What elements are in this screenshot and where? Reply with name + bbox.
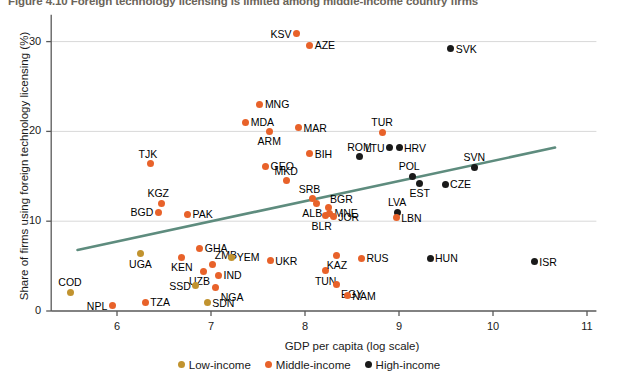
legend-swatch-low [178,361,185,368]
data-point-mkd[interactable] [283,177,290,184]
data-point-jor[interactable] [330,213,337,220]
data-point-aze[interactable] [306,42,313,49]
data-point-label-pol: POL [399,161,420,172]
data-point-hun[interactable] [427,255,434,262]
data-point-label-jor: JOR [338,211,359,222]
legend-swatch-high [365,361,372,368]
data-point-tur[interactable] [379,129,386,136]
data-point-label-mkd: MKD [275,166,298,177]
data-point-label-mda: MDA [251,117,274,128]
data-point-label-cze: CZE [450,179,471,190]
data-point-label-tza: TZA [150,297,170,308]
data-point-label-mar: MAR [303,123,326,134]
y-tick-label-20: 20 [17,124,41,136]
data-point-label-aze: AZE [315,40,335,51]
data-point-label-hrv: HRV [404,142,426,153]
legend-label-high: High-income [376,359,441,371]
data-point-gha[interactable] [196,245,203,252]
data-point-label-mng: MNG [265,99,290,110]
data-point-label-bih: BIH [315,149,333,160]
data-point-ken[interactable] [178,254,185,261]
x-axis-label: GDP per capita (log scale) [117,340,587,352]
data-point-label-svn: SVN [463,152,485,163]
data-point-label-kaz: KAZ [327,260,347,271]
data-point-hrv[interactable] [396,144,403,151]
data-point-label-ksv: KSV [271,28,292,39]
data-point-ukr[interactable] [267,257,274,264]
data-point-label-arm: ARM [258,136,281,147]
legend-label-mid: Middle-income [276,359,351,371]
legend-item-high[interactable]: High-income [365,358,441,371]
data-point-tza[interactable] [142,299,149,306]
data-point-npl[interactable] [109,302,116,309]
data-point-alb[interactable] [313,200,320,207]
data-point-label-nga: NGA [221,291,244,302]
data-point-arm[interactable] [266,128,273,135]
y-tick-label-30: 30 [17,35,41,47]
data-point-label-ukr: UKR [275,255,297,266]
data-point-label-rus: RUS [366,253,388,264]
data-point-nam[interactable] [344,292,351,299]
data-point-pak[interactable] [184,211,191,218]
data-point-isr[interactable] [531,258,538,265]
data-point-yem[interactable] [228,254,235,261]
data-point-label-tjk: TJK [138,148,157,159]
y-tick-label-0: 0 [17,304,41,316]
scatter-chart-figure: Figure 4.10 Foreign technology licensing… [0,0,618,381]
x-tick-label-6: 6 [107,320,127,332]
data-point-uzb[interactable] [200,268,207,275]
data-point-geo[interactable] [262,163,269,170]
data-point-lbn[interactable] [393,214,400,221]
data-point-label-tur: TUR [371,117,393,128]
x-tick-label-11: 11 [577,320,597,332]
x-tick-label-9: 9 [389,320,409,332]
data-point-ksv[interactable] [293,30,300,37]
x-tick-label-10: 10 [483,320,503,332]
data-point-label-bgr: BGR [330,193,353,204]
data-point-label-uga: UGA [129,258,152,269]
data-point-label-kgz: KGZ [147,188,169,199]
data-point-label-lva: LVA [388,197,406,208]
x-tick-label-8: 8 [295,320,315,332]
data-point-label-isr: ISR [539,256,557,267]
data-point-label-alb: ALB [302,208,322,219]
data-point-label-hun: HUN [435,253,458,264]
data-point-svn[interactable] [471,164,478,171]
y-axis-label: Share of firms using foreign technology … [18,21,30,311]
data-point-label-est: EST [409,188,429,199]
y-tick-label-10: 10 [17,214,41,226]
chart-legend: Low-incomeMiddle-incomeHigh-income [0,358,618,371]
data-point-cod[interactable] [67,289,74,296]
data-point-kgz[interactable] [158,200,165,207]
data-point-label-nam: NAM [352,290,375,301]
data-point-label-pak: PAK [193,209,213,220]
data-point-uga[interactable] [137,250,144,257]
data-point-rus[interactable] [358,255,365,262]
data-point-label-ken: KEN [171,262,193,273]
data-point-cze[interactable] [442,181,449,188]
data-point-pol[interactable] [409,173,416,180]
data-point-label-lbn: LBN [401,212,421,223]
data-point-label-npl: NPL [87,300,107,311]
data-point-label-blr: BLR [311,221,331,232]
data-point-label-yem: YEM [237,252,260,263]
x-tick-label-7: 7 [201,320,221,332]
data-point-label-cod: COD [58,277,81,288]
data-point-label-ltu: LTU [366,142,385,153]
data-point-ind[interactable] [215,272,222,279]
legend-item-low[interactable]: Low-income [178,358,251,371]
data-point-bgd[interactable] [155,209,162,216]
data-point-label-ssd: SSD [169,281,191,292]
data-point-label-srb: SRB [299,184,321,195]
data-point-label-ind: IND [224,270,242,281]
legend-label-low: Low-income [189,359,251,371]
data-point-egy[interactable] [333,281,340,288]
data-point-rom[interactable] [356,153,363,160]
legend-item-mid[interactable]: Middle-income [265,358,351,371]
data-point-label-svk: SVK [456,44,477,55]
legend-swatch-mid [265,361,272,368]
data-point-label-bgd: BGD [131,207,154,218]
